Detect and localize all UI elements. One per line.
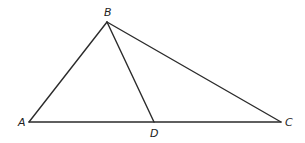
label-b: B [104,6,112,19]
label-a: A [17,116,26,129]
label-d: D [150,127,158,140]
segment-bd [107,22,154,122]
segment-bc [107,22,281,122]
segment-ab [29,22,107,122]
label-c: C [285,116,293,129]
triangle-diagram: A B C D [0,0,305,143]
